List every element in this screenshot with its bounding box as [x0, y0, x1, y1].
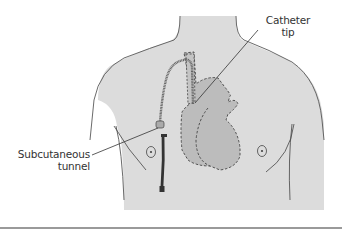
bottom-rule: [0, 227, 342, 229]
catheter-tip-label-line1: Catheter: [263, 14, 313, 26]
subcutaneous-tunnel-label-line1: Subcutaneous: [6, 148, 90, 160]
catheter-external-segment: [162, 134, 163, 186]
catheter-cuff: [156, 121, 164, 128]
catheter-tip-label: Catheter tip: [263, 14, 313, 38]
catheter-clamp: [161, 134, 167, 137]
subcutaneous-tunnel-label: Subcutaneous tunnel: [6, 148, 90, 172]
catheter-hub: [160, 186, 165, 192]
catheter-tip-label-line2: tip: [263, 26, 313, 38]
subcutaneous-tunnel-label-line2: tunnel: [6, 160, 90, 172]
